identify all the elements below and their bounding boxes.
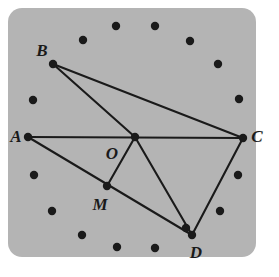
vertex-label-B: B [36, 42, 47, 59]
vertex-dot-B [49, 60, 57, 68]
ring-dot-8 [216, 207, 224, 215]
vertex-label-D: D [190, 244, 202, 261]
ring-dot-12 [78, 231, 86, 239]
vertex-label-A: A [10, 128, 21, 145]
vertex-dot-D [188, 231, 196, 239]
ring-dot-4 [186, 37, 194, 45]
ring-dot-15 [29, 96, 37, 104]
vertex-dot-A [24, 133, 32, 141]
segment-group [28, 64, 243, 235]
segment-BO [53, 64, 135, 137]
vertex-dot-M [103, 182, 111, 190]
vertex-label-O: O [106, 145, 118, 162]
vertex-dot-O [131, 133, 139, 141]
segment-BC [53, 64, 243, 138]
ring-dot-6 [235, 95, 243, 103]
ring-dot-1 [79, 36, 87, 44]
segment-CD [192, 138, 243, 235]
ring-dot-7 [234, 171, 242, 179]
diagram-canvas: ABCDMO [0, 0, 279, 277]
ring-dot-11 [113, 243, 121, 251]
ring-dot-9 [182, 224, 190, 232]
ring-dot-10 [151, 244, 159, 252]
ring-dot-14 [30, 171, 38, 179]
ring-dot-3 [151, 22, 159, 30]
vertex-label-C: C [251, 128, 262, 145]
ring-dot-13 [48, 207, 56, 215]
vertex-dot-C [239, 134, 247, 142]
vertex-dot-group [24, 60, 247, 239]
vertex-label-M: M [92, 196, 107, 213]
segment-OD [135, 137, 192, 235]
ring-dot-5 [214, 60, 222, 68]
ring-dot-2 [112, 22, 120, 30]
